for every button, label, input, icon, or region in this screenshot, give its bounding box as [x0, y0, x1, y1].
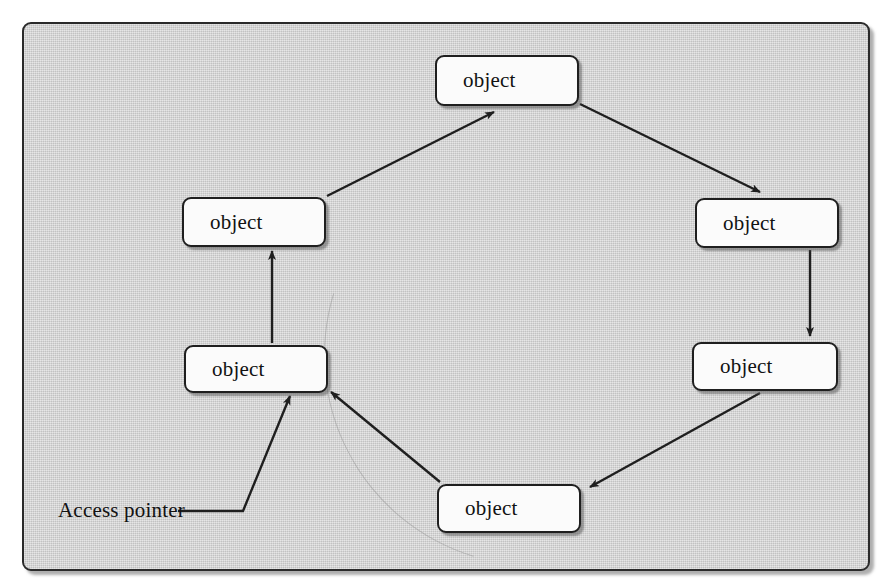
object-node-label: object: [720, 354, 773, 379]
object-node-label: object: [212, 357, 265, 382]
object-node-label: object: [210, 210, 263, 235]
access-pointer-label: Access pointer: [58, 498, 185, 523]
object-node-label: object: [463, 68, 516, 93]
object-node-label: object: [465, 496, 518, 521]
object-node-upper-right[interactable]: object: [695, 198, 839, 248]
object-node-lower-left[interactable]: object: [184, 345, 328, 393]
object-node-upper-left[interactable]: object: [182, 197, 326, 247]
object-node-bottom[interactable]: object: [437, 484, 581, 533]
object-node-label: object: [723, 211, 776, 236]
diagram-canvas: object object object object object objec…: [0, 0, 886, 584]
object-node-top[interactable]: object: [435, 55, 579, 106]
object-node-lower-right[interactable]: object: [692, 342, 838, 391]
